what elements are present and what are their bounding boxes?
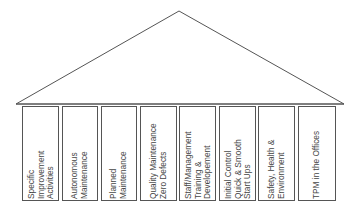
pillar-label: Quality Maintenance Zero Defects <box>149 109 168 199</box>
pillar-5: Staff/Management Training & Developement <box>179 106 216 201</box>
pillar-label: Planned Maintenance <box>109 109 128 199</box>
pillar-8: TPM in the Offices <box>298 106 336 201</box>
pillar-6: Initial Control Quick & Smooth Start Ups <box>219 106 256 201</box>
pillar-7: Safety, Health & Environment <box>258 106 295 201</box>
pillar-label: Specific Improvement Activities <box>26 109 55 199</box>
pillar-label: Safety, Health & Environment <box>267 109 286 199</box>
pillar-4: Quality Maintenance Zero Defects <box>140 106 177 201</box>
pillar-label: Initial Control Quick & Smooth Start Ups <box>223 109 252 199</box>
pillar-3: Planned Maintenance <box>101 106 137 201</box>
pillar-label: TPM in the Offices <box>312 109 322 199</box>
pillar-1: Specific Improvement Activities <box>22 106 59 201</box>
pillar-2: Autonomous Maintenance <box>62 106 98 201</box>
pillar-label: Autonomous Maintenance <box>70 109 89 199</box>
pillar-label: Staff/Management Training & Developement <box>183 109 212 199</box>
